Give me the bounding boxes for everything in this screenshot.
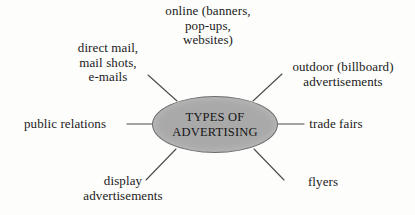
branch-flyers-line-1: flyers: [288, 175, 358, 190]
branch-outdoor-line-2: advertisements: [272, 75, 414, 90]
branch-direct-mail-line-3: e-mails: [52, 70, 164, 85]
center-node-line-2: ADVERTISING: [172, 125, 257, 139]
branch-outdoor-line-1: outdoor (billboard): [272, 60, 414, 75]
branch-label-trade-fairs: trade fairs: [288, 117, 384, 132]
branch-online-line-3: websites): [146, 33, 270, 48]
advertising-types-mind-map: TYPES OF ADVERTISING online (banners, po…: [0, 0, 415, 215]
branch-label-outdoor-advertisements: outdoor (billboard) advertisements: [272, 60, 414, 89]
branch-online-line-1: online (banners,: [146, 4, 270, 19]
branch-label-flyers: flyers: [288, 175, 358, 190]
center-node-line-1: TYPES OF: [186, 110, 245, 124]
branch-label-public-relations: public relations: [6, 117, 124, 132]
center-node-types-of-advertising: TYPES OF ADVERTISING: [152, 96, 278, 153]
branch-online-line-2: pop-ups,: [146, 19, 270, 34]
branch-label-online: online (banners, pop-ups, websites): [146, 4, 270, 48]
branch-display-line-2: advertisements: [58, 189, 188, 204]
connector-flyers: [254, 149, 284, 180]
branch-label-display-advertisements: display advertisements: [58, 174, 188, 203]
branch-trade-fairs-line-1: trade fairs: [288, 117, 384, 132]
branch-display-line-1: display: [58, 174, 188, 189]
branch-public-relations-line-1: public relations: [6, 117, 124, 132]
branch-label-direct-mail: direct mail, mail shots, e-mails: [52, 41, 164, 85]
branch-direct-mail-line-1: direct mail,: [52, 41, 164, 56]
branch-direct-mail-line-2: mail shots,: [52, 56, 164, 71]
